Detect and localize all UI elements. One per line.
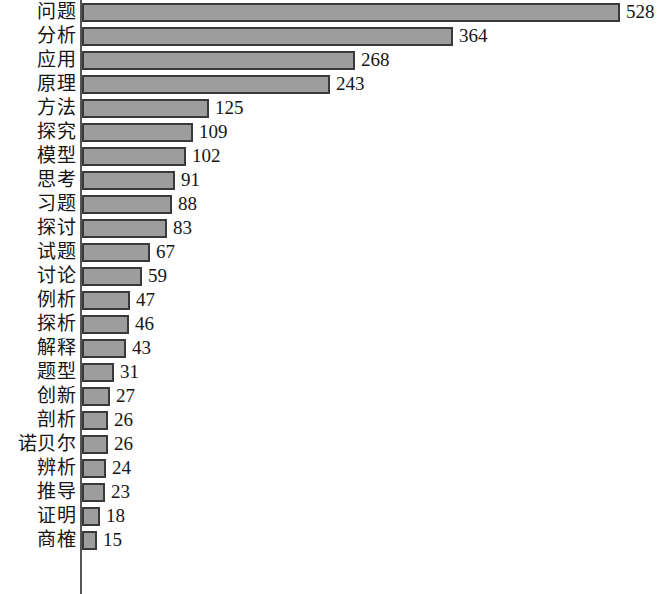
category-label: 探讨 xyxy=(37,216,76,240)
bar-value-label: 26 xyxy=(114,432,133,456)
category-label: 创新 xyxy=(37,384,76,408)
bar-value-label: 83 xyxy=(173,216,192,240)
bar-row: 习题88 xyxy=(0,192,667,216)
bar-row: 辨析24 xyxy=(0,456,667,480)
bar xyxy=(82,435,108,454)
bar-row: 原理243 xyxy=(0,72,667,96)
bar-value-label: 47 xyxy=(136,288,155,312)
bar-value-label: 109 xyxy=(199,120,228,144)
bar-value-label: 243 xyxy=(336,72,365,96)
bar-value-label: 26 xyxy=(114,408,133,432)
bar xyxy=(82,459,106,478)
bar-value-label: 23 xyxy=(111,480,130,504)
bar xyxy=(82,195,172,214)
bar xyxy=(82,507,100,526)
bar-row: 商榷15 xyxy=(0,528,667,552)
bar-value-label: 528 xyxy=(626,0,655,24)
bar-row: 方法125 xyxy=(0,96,667,120)
bar-value-label: 364 xyxy=(459,24,488,48)
category-label: 推导 xyxy=(37,480,76,504)
horizontal-bar-chart: 问题528分析364应用268原理243方法125探究109模型102思考91习… xyxy=(0,0,667,594)
bar-value-label: 67 xyxy=(156,240,175,264)
category-label: 题型 xyxy=(37,360,76,384)
bar-row: 证明18 xyxy=(0,504,667,528)
category-label: 证明 xyxy=(37,504,76,528)
bar-value-label: 125 xyxy=(215,96,244,120)
bar-value-label: 31 xyxy=(120,360,139,384)
bar-value-label: 102 xyxy=(192,144,221,168)
bar xyxy=(82,27,453,46)
bar xyxy=(82,291,130,310)
category-label: 剖析 xyxy=(37,408,76,432)
bar-row: 思考91 xyxy=(0,168,667,192)
bar-value-label: 15 xyxy=(103,528,122,552)
category-label: 应用 xyxy=(37,48,76,72)
bar xyxy=(82,483,105,502)
category-label: 商榷 xyxy=(37,528,76,552)
bar xyxy=(82,3,620,22)
bar xyxy=(82,123,193,142)
bar xyxy=(82,75,330,94)
bar-row: 题型31 xyxy=(0,360,667,384)
bar-row: 推导23 xyxy=(0,480,667,504)
bar xyxy=(82,411,108,430)
category-label: 问题 xyxy=(37,0,76,24)
category-label: 习题 xyxy=(37,192,76,216)
bar-row: 例析47 xyxy=(0,288,667,312)
category-label: 探究 xyxy=(37,120,76,144)
bar xyxy=(82,243,150,262)
bar-value-label: 59 xyxy=(148,264,167,288)
bar-row: 探讨83 xyxy=(0,216,667,240)
bar-value-label: 27 xyxy=(116,384,135,408)
bar xyxy=(82,99,209,118)
bar-row: 探析46 xyxy=(0,312,667,336)
bar-row: 模型102 xyxy=(0,144,667,168)
bar-row: 分析364 xyxy=(0,24,667,48)
bar-value-label: 268 xyxy=(361,48,390,72)
bar xyxy=(82,339,126,358)
category-label: 方法 xyxy=(37,96,76,120)
bar-value-label: 46 xyxy=(135,312,154,336)
bar xyxy=(82,171,175,190)
bar xyxy=(82,147,186,166)
bar-value-label: 18 xyxy=(106,504,125,528)
bar-row: 问题528 xyxy=(0,0,667,24)
bar-value-label: 88 xyxy=(178,192,197,216)
bar-row: 讨论59 xyxy=(0,264,667,288)
bar-row: 解释43 xyxy=(0,336,667,360)
category-label: 模型 xyxy=(37,144,76,168)
category-label: 例析 xyxy=(37,288,76,312)
category-label: 分析 xyxy=(37,24,76,48)
bar-row: 探究109 xyxy=(0,120,667,144)
bar-row: 诺贝尔26 xyxy=(0,432,667,456)
bar xyxy=(82,219,167,238)
bar-rows-container: 问题528分析364应用268原理243方法125探究109模型102思考91习… xyxy=(0,0,667,552)
category-label: 原理 xyxy=(37,72,76,96)
category-label: 诺贝尔 xyxy=(18,432,77,456)
bar xyxy=(82,51,355,70)
category-label: 探析 xyxy=(37,312,76,336)
bar-row: 应用268 xyxy=(0,48,667,72)
bar xyxy=(82,387,110,406)
category-label: 思考 xyxy=(37,168,76,192)
bar-value-label: 91 xyxy=(181,168,200,192)
bar xyxy=(82,531,97,550)
bar-value-label: 43 xyxy=(132,336,151,360)
bar-row: 剖析26 xyxy=(0,408,667,432)
category-label: 试题 xyxy=(37,240,76,264)
bar-row: 试题67 xyxy=(0,240,667,264)
category-label: 解释 xyxy=(37,336,76,360)
bar-value-label: 24 xyxy=(112,456,131,480)
bar xyxy=(82,267,142,286)
bar-row: 创新27 xyxy=(0,384,667,408)
category-label: 辨析 xyxy=(37,456,76,480)
bar xyxy=(82,363,114,382)
bar xyxy=(82,315,129,334)
category-label: 讨论 xyxy=(37,264,76,288)
